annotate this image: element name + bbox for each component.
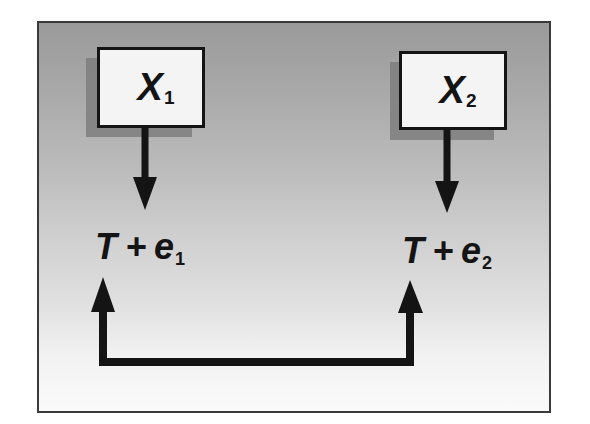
true-score-2: T — [402, 230, 424, 271]
expression-2: T+e2 — [402, 233, 492, 272]
box-x2-subscript: 2 — [466, 90, 477, 111]
box-x1: X1 — [97, 47, 205, 128]
error-subscript-1: 1 — [175, 249, 185, 269]
error-subscript-2: 2 — [482, 253, 492, 273]
box-x2: X2 — [399, 51, 507, 130]
box-x2-variable: X — [440, 69, 465, 111]
plus-operator-2: + — [433, 230, 454, 271]
box-x1-variable: X — [138, 66, 163, 108]
plus-operator-1: + — [126, 226, 147, 267]
box-x1-label: X1 — [128, 68, 175, 107]
error-term-1: e — [154, 226, 174, 267]
box-x1-subscript: 1 — [164, 87, 175, 108]
error-term-2: e — [461, 230, 481, 271]
expression-1: T+e1 — [95, 229, 185, 268]
true-score-1: T — [95, 226, 117, 267]
box-x2-label: X2 — [430, 71, 477, 110]
